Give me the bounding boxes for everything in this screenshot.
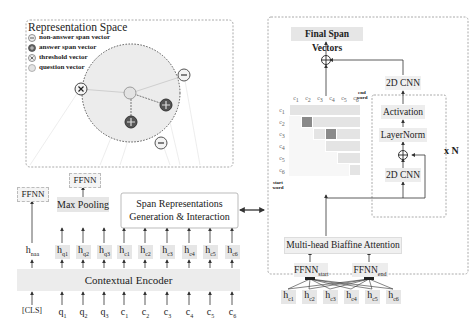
span-repr-line2: Generation & Interaction bbox=[121, 212, 238, 222]
cnn-top-box: 2D CNN bbox=[385, 76, 421, 90]
answer-span-cell bbox=[325, 128, 337, 140]
span-matrix bbox=[289, 104, 361, 176]
grid-row-label: c4 bbox=[276, 143, 288, 151]
legend-non-answer: non-answer span vector bbox=[39, 34, 110, 41]
grid-col-label: c1 bbox=[290, 95, 302, 103]
repeat-label: x N bbox=[444, 146, 459, 156]
hidden-state: hc6 bbox=[225, 245, 240, 259]
hidden-state: hc5 bbox=[203, 245, 218, 259]
legend-answer: answer span vector bbox=[39, 44, 96, 51]
input-token: c5 bbox=[203, 307, 218, 319]
biaffine-box: Multi-head Biaffine Attention bbox=[284, 237, 402, 254]
ffnn-left-box: FFNN bbox=[17, 187, 49, 202]
hidden-state: hq2 bbox=[76, 245, 91, 259]
hidden-state: hq1 bbox=[55, 245, 70, 259]
hidden-state: hc1 bbox=[117, 245, 132, 259]
hidden-state: hc4 bbox=[344, 290, 359, 304]
legend-question: question vector bbox=[39, 64, 85, 71]
grid-row-label: c5 bbox=[276, 155, 288, 163]
grid-col-label: c6 bbox=[350, 95, 362, 103]
hidden-state: hc5 bbox=[365, 290, 380, 304]
grid-col-label: c2 bbox=[302, 95, 314, 103]
final-span-vectors: Final Span Vectors bbox=[291, 27, 363, 41]
hidden-state: hnaa bbox=[25, 245, 40, 259]
input-token: [CLS] bbox=[20, 307, 44, 315]
hidden-state: hq3 bbox=[97, 245, 112, 259]
input-token: c6 bbox=[225, 307, 240, 319]
hidden-state: hc2 bbox=[302, 290, 317, 304]
hidden-state: hc6 bbox=[386, 290, 401, 304]
hidden-state: hc4 bbox=[182, 245, 197, 259]
grid-col-label: c4 bbox=[326, 95, 338, 103]
answer-span-cell bbox=[301, 116, 313, 128]
grid-row-label: c1 bbox=[276, 107, 288, 115]
grid-row-label: c3 bbox=[276, 131, 288, 139]
input-token: q1 bbox=[55, 307, 70, 319]
start-word-label: start word bbox=[271, 180, 285, 190]
activation-box: Activation bbox=[381, 105, 425, 119]
contextual-encoder: Contextual Encoder bbox=[17, 269, 240, 291]
ffnn-end-box: FFNNend bbox=[352, 263, 388, 277]
input-token: c2 bbox=[138, 307, 153, 319]
hidden-state: hc1 bbox=[281, 290, 296, 304]
legend-threshold: threshold vector bbox=[39, 54, 88, 61]
input-token: q2 bbox=[76, 307, 91, 319]
input-token: c1 bbox=[117, 307, 132, 319]
ffnn-mid-box: FFNN bbox=[69, 173, 101, 188]
input-token: q3 bbox=[97, 307, 112, 319]
grid-row-label: c2 bbox=[276, 119, 288, 127]
max-pooling-box: Max Pooling bbox=[57, 197, 109, 212]
grid-col-label: c3 bbox=[314, 95, 326, 103]
cnn-inner-box: 2D CNN bbox=[385, 168, 421, 182]
hidden-state: hc3 bbox=[160, 245, 175, 259]
layernorm-box: LayerNorm bbox=[379, 128, 427, 142]
input-token: c4 bbox=[182, 307, 197, 319]
hidden-state: hc3 bbox=[323, 290, 338, 304]
span-repr-line1: Span Representations bbox=[121, 199, 238, 209]
input-token: c3 bbox=[160, 307, 175, 319]
grid-col-label: c5 bbox=[338, 95, 350, 103]
representation-space-title: Representation Space bbox=[28, 22, 127, 34]
ffnn-start-box: FFNNstart bbox=[294, 263, 328, 277]
hidden-state: hc2 bbox=[138, 245, 153, 259]
grid-row-label: c6 bbox=[276, 167, 288, 175]
